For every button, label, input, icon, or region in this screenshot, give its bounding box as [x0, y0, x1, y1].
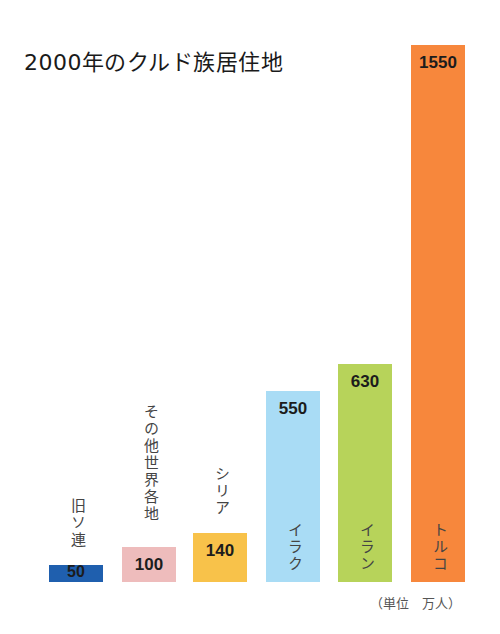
bar-2: 140 [193, 533, 247, 582]
bar-value-label: 100 [122, 555, 176, 575]
bar-value-label: 550 [266, 399, 320, 419]
bar-value-label: 50 [49, 563, 103, 581]
bar-5: 1550 [411, 45, 465, 582]
bar-0: 50 [49, 565, 103, 582]
bar-value-label: 630 [338, 372, 392, 392]
category-label: シリア [211, 466, 232, 517]
category-label: 旧ソ連 [67, 498, 88, 549]
bar-value-label: 140 [193, 541, 247, 561]
bar-value-label: 1550 [411, 53, 465, 73]
unit-label: （単位 万人） [370, 593, 461, 612]
category-label: イラク [284, 522, 305, 573]
category-label: イラン [356, 522, 377, 573]
category-label: その他世界各地 [140, 404, 161, 523]
category-label: トルコ [429, 522, 450, 573]
bar-1: 100 [122, 547, 176, 582]
chart-title: 2000年のクルド族居住地 [24, 44, 284, 76]
